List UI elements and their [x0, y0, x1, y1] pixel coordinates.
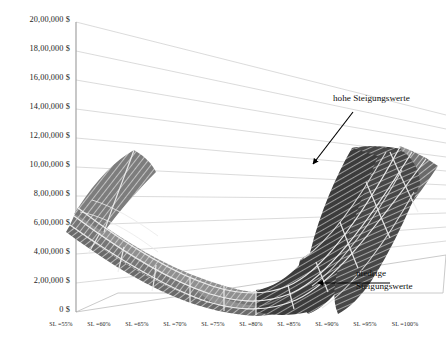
x-tick-label: SL =70% [155, 320, 195, 328]
x-tick-label: SL =55% [41, 320, 81, 328]
y-tick-label: 8,00,000 $ [0, 189, 70, 199]
x-tick-label: SL =80% [231, 320, 271, 328]
surface-left-flank [74, 150, 156, 232]
x-tick-label: SL =60% [79, 320, 119, 328]
y-tick-label: 18,00,000 $ [0, 44, 70, 54]
y-tick-label: 2,00,000 $ [0, 276, 70, 286]
x-tick-label: SL =100% [383, 320, 427, 328]
annotation-low-slope-line1: niedrige [356, 268, 386, 280]
y-tick-label: 12,00,000 $ [0, 131, 70, 141]
y-tick-label: 6,00,000 $ [0, 218, 70, 228]
surface-chart: 20,00,000 $ 18,00,000 $ 16,00,000 $ 14,0… [0, 0, 446, 337]
x-tick-label: SL =85% [269, 320, 309, 328]
y-tick-label: 0 $ [0, 305, 70, 315]
y-tick-label: 14,00,000 $ [0, 102, 70, 112]
y-tick-label: 16,00,000 $ [0, 73, 70, 83]
x-tick-label: SL =65% [117, 320, 157, 328]
annotation-high-slope: hohe Steigungswerte [333, 93, 410, 105]
y-tick-label: 10,00,000 $ [0, 160, 70, 170]
y-tick-label: 20,00,000 $ [0, 15, 70, 25]
x-tick-label: SL =75% [193, 320, 233, 328]
x-tick-label: SL =95% [345, 320, 385, 328]
arrow-high-slope [313, 112, 353, 164]
y-tick-label: 4,00,000 $ [0, 247, 70, 257]
x-tick-label: SL =90% [307, 320, 347, 328]
annotation-low-slope-line2: Steigungswerte [356, 281, 413, 293]
